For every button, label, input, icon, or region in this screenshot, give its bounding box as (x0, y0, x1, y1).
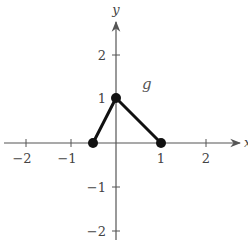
y-tick-label: −2 (87, 224, 106, 239)
y-tick-label: 2 (98, 48, 106, 63)
x-tick-label: 1 (157, 151, 165, 166)
coordinate-plane: −2 −1 1 2 x 2 1 −1 −2 y g (0, 0, 248, 242)
y-tick-label: −1 (87, 180, 106, 195)
x-tick-label: 2 (202, 151, 210, 166)
function-label-g: g (142, 75, 152, 93)
data-point (156, 138, 166, 148)
x-tick-label: −1 (57, 151, 76, 166)
x-axis: −2 −1 1 2 x (4, 135, 248, 166)
x-tick-label: −2 (12, 151, 31, 166)
y-axis-label: y (111, 2, 120, 17)
series-g: g (88, 75, 166, 148)
y-tick-label: 1 (98, 91, 106, 106)
x-axis-label: x (244, 135, 248, 150)
data-point (88, 138, 98, 148)
data-point (111, 93, 121, 103)
